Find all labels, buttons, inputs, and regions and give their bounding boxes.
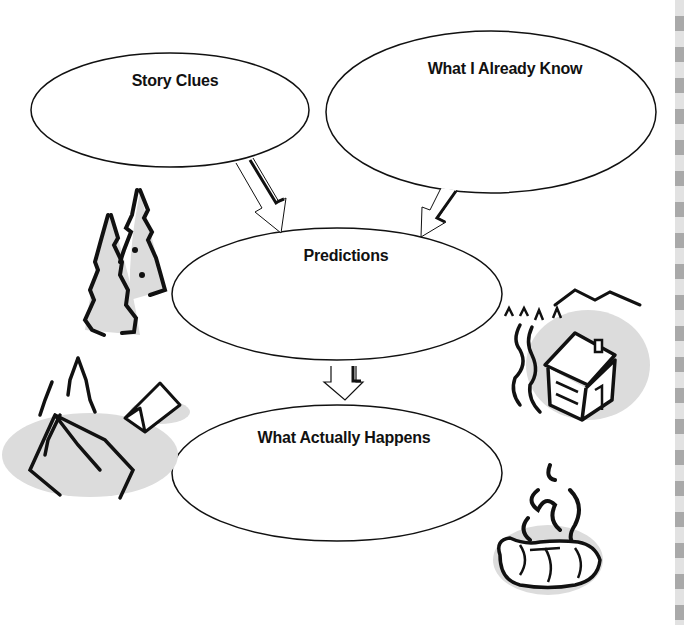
label-what-i-already-know: What I Already Know — [428, 60, 583, 78]
arrow-clues-to-predictions — [236, 158, 286, 233]
label-what-actually-happens: What Actually Happens — [257, 429, 430, 447]
tent-icon — [2, 358, 190, 498]
bubble-what-actually-happens[interactable] — [172, 405, 502, 541]
bubble-story-clues[interactable] — [31, 53, 309, 167]
graphic-organizer — [0, 0, 684, 625]
label-predictions: Predictions — [304, 247, 389, 265]
bubble-what-i-already-know[interactable] — [326, 31, 656, 193]
arrow-predictions-to-outcome — [324, 366, 363, 400]
cabin-icon — [505, 290, 650, 420]
page-edge-stripe — [675, 0, 684, 625]
campfire-icon — [493, 465, 603, 595]
pine-trees-icon — [85, 190, 165, 335]
label-story-clues: Story Clues — [132, 72, 219, 90]
arrow-knowledge-to-predictions — [421, 188, 457, 237]
